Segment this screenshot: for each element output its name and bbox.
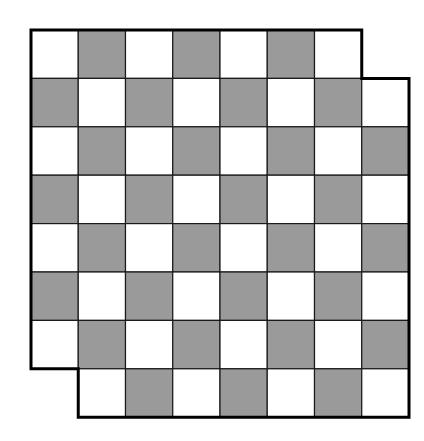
board-cell-dark — [78, 30, 125, 78]
board-cell-dark — [173, 127, 220, 175]
board-cell-light — [267, 272, 314, 320]
board-cell-light — [315, 30, 362, 78]
board-cell-light — [31, 224, 78, 272]
checkerboard-cells — [31, 30, 409, 417]
board-cell-dark — [78, 320, 125, 368]
board-cell-light — [362, 175, 409, 223]
board-cell-dark — [78, 224, 125, 272]
board-cell-dark — [78, 127, 125, 175]
board-cell-dark — [173, 30, 220, 78]
board-cell-light — [362, 369, 409, 417]
board-cell-dark — [126, 272, 173, 320]
board-cell-light — [78, 78, 125, 126]
board-cell-light — [220, 30, 267, 78]
board-cell-light — [126, 320, 173, 368]
board-cell-dark — [362, 127, 409, 175]
board-cell-dark — [315, 78, 362, 126]
board-cell-light — [267, 369, 314, 417]
board-cell-light — [173, 369, 220, 417]
board-cell-dark — [267, 320, 314, 368]
board-cell-dark — [315, 272, 362, 320]
board-cell-light — [126, 224, 173, 272]
board-cell-dark — [362, 320, 409, 368]
board-cell-dark — [220, 369, 267, 417]
board-cell-light — [173, 175, 220, 223]
board-cell-dark — [267, 224, 314, 272]
board-cell-light — [362, 78, 409, 126]
board-cell-light — [315, 224, 362, 272]
board-cell-light — [31, 30, 78, 78]
board-cell-light — [78, 175, 125, 223]
board-cell-dark — [315, 369, 362, 417]
board-cell-light — [126, 30, 173, 78]
board-cell-light — [78, 369, 125, 417]
board-cell-light — [267, 78, 314, 126]
board-cell-light — [78, 272, 125, 320]
board-cell-dark — [173, 320, 220, 368]
board-cell-dark — [31, 272, 78, 320]
board-cell-light — [315, 127, 362, 175]
board-cell-light — [267, 175, 314, 223]
board-cell-light — [220, 127, 267, 175]
board-cell-dark — [126, 369, 173, 417]
board-cell-dark — [31, 78, 78, 126]
board-cell-dark — [31, 175, 78, 223]
board-cell-light — [220, 224, 267, 272]
board-cell-dark — [362, 224, 409, 272]
board-cell-dark — [126, 175, 173, 223]
board-cell-light — [126, 127, 173, 175]
mutilated-checkerboard-diagram — [0, 0, 424, 441]
board-cell-dark — [220, 78, 267, 126]
board-cell-dark — [173, 224, 220, 272]
board-cell-dark — [126, 78, 173, 126]
board-cell-light — [173, 272, 220, 320]
board-cell-light — [362, 272, 409, 320]
board-cell-light — [31, 127, 78, 175]
board-cell-dark — [220, 272, 267, 320]
board-cell-dark — [220, 175, 267, 223]
board-cell-light — [220, 320, 267, 368]
board-cell-dark — [267, 30, 314, 78]
board-cell-light — [315, 320, 362, 368]
board-cell-dark — [267, 127, 314, 175]
board-cell-light — [173, 78, 220, 126]
board-cell-light — [31, 320, 78, 368]
board-cell-dark — [315, 175, 362, 223]
